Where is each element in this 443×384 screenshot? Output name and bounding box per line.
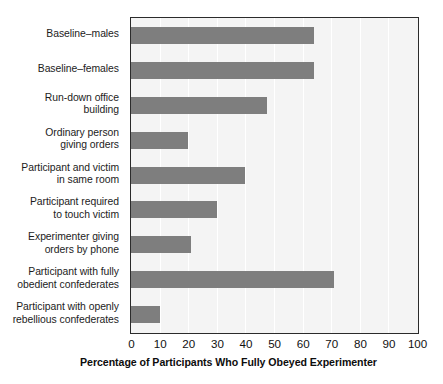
category-label: Baseline–females [0, 63, 119, 75]
bar [131, 132, 188, 149]
gridline [360, 18, 361, 333]
gridline [388, 18, 389, 333]
x-tick-label: 100 [408, 337, 427, 351]
x-tick-label: 30 [211, 337, 224, 351]
category-label: Experimenter giving orders by phone [0, 231, 119, 256]
bar [131, 97, 267, 114]
bar-chart: Baseline–malesBaseline–femalesRun-down o… [0, 0, 443, 384]
category-label: Participant required to touch victim [0, 196, 119, 221]
x-tick-label: 10 [154, 337, 167, 351]
x-tick-label: 60 [297, 337, 310, 351]
bar [131, 271, 334, 288]
bar [131, 306, 160, 323]
category-label: Participant with fully obedient confeder… [0, 266, 119, 291]
category-label: Baseline–males [0, 28, 119, 40]
x-tick-label: 80 [354, 337, 367, 351]
bar [131, 201, 217, 218]
x-axis-title: Percentage of Participants Who Fully Obe… [0, 356, 443, 368]
category-label: Participant and victim in same room [0, 162, 119, 187]
category-axis-labels: Baseline–malesBaseline–femalesRun-down o… [0, 17, 124, 334]
bar [131, 167, 245, 184]
category-label: Participant with openly rebellious confe… [0, 301, 119, 326]
bar [131, 27, 314, 44]
bar [131, 236, 191, 253]
bar [131, 62, 314, 79]
x-tick-label: 20 [182, 337, 195, 351]
x-tick-label: 90 [383, 337, 396, 351]
x-axis-tick-labels: 0102030405060708090100 [130, 337, 419, 353]
plot-area [130, 17, 419, 334]
x-tick-label: 50 [268, 337, 281, 351]
x-tick-label: 40 [240, 337, 253, 351]
category-label: Run-down office building [0, 92, 119, 117]
x-tick-label: 70 [325, 337, 338, 351]
category-label: Ordinary person giving orders [0, 127, 119, 152]
x-tick-label: 0 [128, 337, 134, 351]
plot-inner [131, 18, 418, 333]
